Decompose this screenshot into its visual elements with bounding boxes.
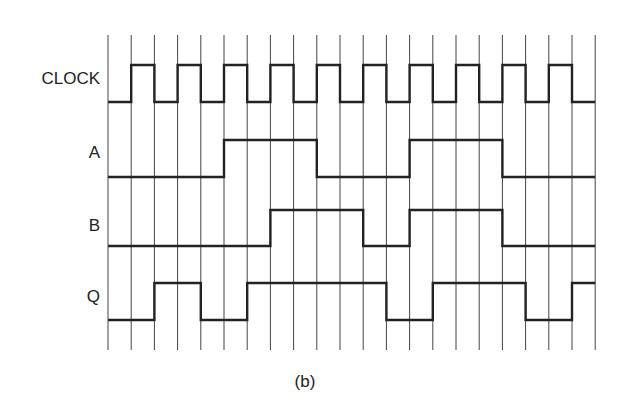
trace-a bbox=[108, 140, 595, 177]
signal-label-clock: CLOCK bbox=[0, 69, 100, 89]
grid-lines bbox=[108, 35, 595, 350]
signal-label-q: Q bbox=[0, 287, 100, 307]
timing-diagram bbox=[0, 0, 623, 407]
signal-label-a: A bbox=[0, 143, 100, 163]
trace-b bbox=[108, 210, 595, 246]
trace-clock bbox=[108, 65, 595, 102]
figure-caption: (b) bbox=[290, 372, 320, 392]
signal-label-b: B bbox=[0, 216, 100, 236]
trace-q bbox=[108, 283, 595, 320]
signal-traces bbox=[108, 65, 595, 320]
